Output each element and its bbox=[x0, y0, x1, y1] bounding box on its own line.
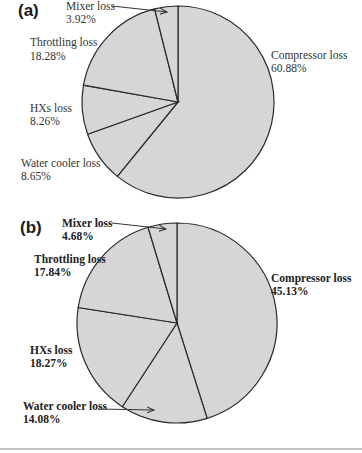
pie-a-slices bbox=[82, 6, 274, 198]
value-compressor-a: 60.88% bbox=[271, 62, 307, 74]
value-throttling-a: 18.28% bbox=[30, 50, 66, 62]
pie-chart-b: (b) Mixer loss 4.68% Throttling loss 17.… bbox=[20, 217, 352, 425]
value-water-a: 8.65% bbox=[21, 170, 51, 182]
label-compressor-a: Compressor loss bbox=[271, 49, 348, 62]
figure: (a) Mixer loss 3.92% Throttling loss 18.… bbox=[0, 0, 362, 453]
value-water-b: 14.08% bbox=[23, 413, 60, 425]
value-mixer-b: 4.68% bbox=[62, 230, 94, 242]
label-mixer-a: Mixer loss bbox=[66, 0, 115, 12]
panel-label-b: (b) bbox=[20, 218, 42, 237]
label-water-b: Water cooler loss bbox=[23, 400, 107, 412]
label-throttling-a: Throttling loss bbox=[30, 36, 98, 49]
label-mixer-b: Mixer loss bbox=[62, 217, 113, 229]
pie-b-slices bbox=[77, 223, 277, 423]
label-water-a: Water cooler loss bbox=[21, 157, 101, 169]
panel-label-a: (a) bbox=[18, 1, 39, 20]
value-hxs-a: 8.26% bbox=[30, 115, 60, 127]
value-throttling-b: 17.84% bbox=[34, 266, 71, 278]
value-compressor-b: 45.13% bbox=[271, 285, 308, 297]
pie-chart-a: (a) Mixer loss 3.92% Throttling loss 18.… bbox=[18, 0, 348, 198]
label-compressor-b: Compressor loss bbox=[271, 272, 352, 285]
label-hxs-a: HXs loss bbox=[30, 102, 72, 114]
label-throttling-b: Throttling loss bbox=[34, 253, 106, 266]
value-mixer-a: 3.92% bbox=[66, 13, 96, 25]
value-hxs-b: 18.27% bbox=[30, 357, 67, 369]
label-hxs-b: HXs loss bbox=[30, 344, 73, 356]
